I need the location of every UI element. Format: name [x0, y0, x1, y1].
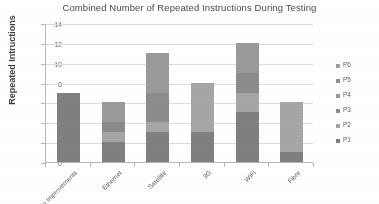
bar-segment[interactable] [280, 102, 303, 152]
legend-item-p6[interactable]: P6 [336, 58, 378, 73]
legend-label: P2 [343, 122, 351, 129]
x-axis-tick-mark [268, 163, 269, 167]
legend-label: P6 [343, 62, 351, 69]
bar-column[interactable] [102, 102, 125, 162]
x-axis-category-label: Ethernet [101, 169, 123, 191]
bar-segment[interactable] [280, 152, 303, 162]
bar-segment[interactable] [102, 122, 125, 132]
legend-item-p3[interactable]: P3 [336, 103, 378, 118]
bar-segment[interactable] [236, 73, 259, 93]
legend-item-p1[interactable]: P1 [336, 133, 378, 148]
bar-segment[interactable] [236, 93, 259, 113]
chart-title: Combined Number of Repeated Instructions… [0, 2, 379, 13]
bar-column[interactable] [146, 53, 169, 162]
chart-container: Combined Number of Repeated Instructions… [0, 0, 379, 204]
legend-label: P5 [343, 77, 351, 84]
legend-swatch-icon [336, 64, 340, 68]
x-axis-category-label: WiFi [243, 169, 257, 183]
bar-segment[interactable] [191, 83, 214, 133]
x-axis-category-label: No Improvements [37, 169, 78, 204]
x-axis-tick-mark [179, 163, 180, 167]
chart-legend: P6P5P4P3P2P1 [336, 58, 378, 148]
legend-swatch-icon [336, 94, 340, 98]
bar-column[interactable] [57, 93, 80, 163]
x-axis-tick-mark [224, 163, 225, 167]
legend-swatch-icon [336, 109, 340, 113]
legend-swatch-icon [336, 79, 340, 83]
legend-item-p4[interactable]: P4 [336, 88, 378, 103]
x-axis-category-label: Fibre [286, 169, 301, 184]
legend-label: P3 [343, 107, 351, 114]
bar-segment[interactable] [146, 93, 169, 123]
legend-swatch-icon [336, 124, 340, 128]
x-axis-tick-mark [90, 163, 91, 167]
bar-segment[interactable] [236, 43, 259, 73]
bar-segment[interactable] [102, 132, 125, 142]
bar-segment[interactable] [102, 142, 125, 162]
x-axis-category-label: Satellite [146, 169, 167, 190]
bars-layer [46, 24, 313, 162]
legend-label: P4 [343, 92, 351, 99]
x-axis-tick-mark [134, 163, 135, 167]
bar-segment[interactable] [146, 132, 169, 162]
legend-label: P1 [343, 137, 351, 144]
bar-column[interactable] [236, 43, 259, 162]
legend-item-p5[interactable]: P5 [336, 73, 378, 88]
x-axis-tick-mark [45, 163, 46, 167]
bar-segment[interactable] [236, 112, 259, 162]
bar-segment[interactable] [191, 132, 214, 162]
bar-segment[interactable] [146, 53, 169, 93]
plot-area [45, 24, 313, 163]
bar-segment[interactable] [57, 93, 80, 163]
legend-item-p2[interactable]: P2 [336, 118, 378, 133]
bar-segment[interactable] [102, 102, 125, 122]
bar-column[interactable] [280, 102, 303, 162]
bar-segment[interactable] [146, 122, 169, 132]
x-axis-category-label: 3G [201, 169, 212, 180]
x-axis-tick-mark [313, 163, 314, 167]
bar-column[interactable] [191, 83, 214, 162]
y-axis-title: Repeated Intructions [7, 4, 17, 116]
legend-swatch-icon [336, 139, 340, 143]
